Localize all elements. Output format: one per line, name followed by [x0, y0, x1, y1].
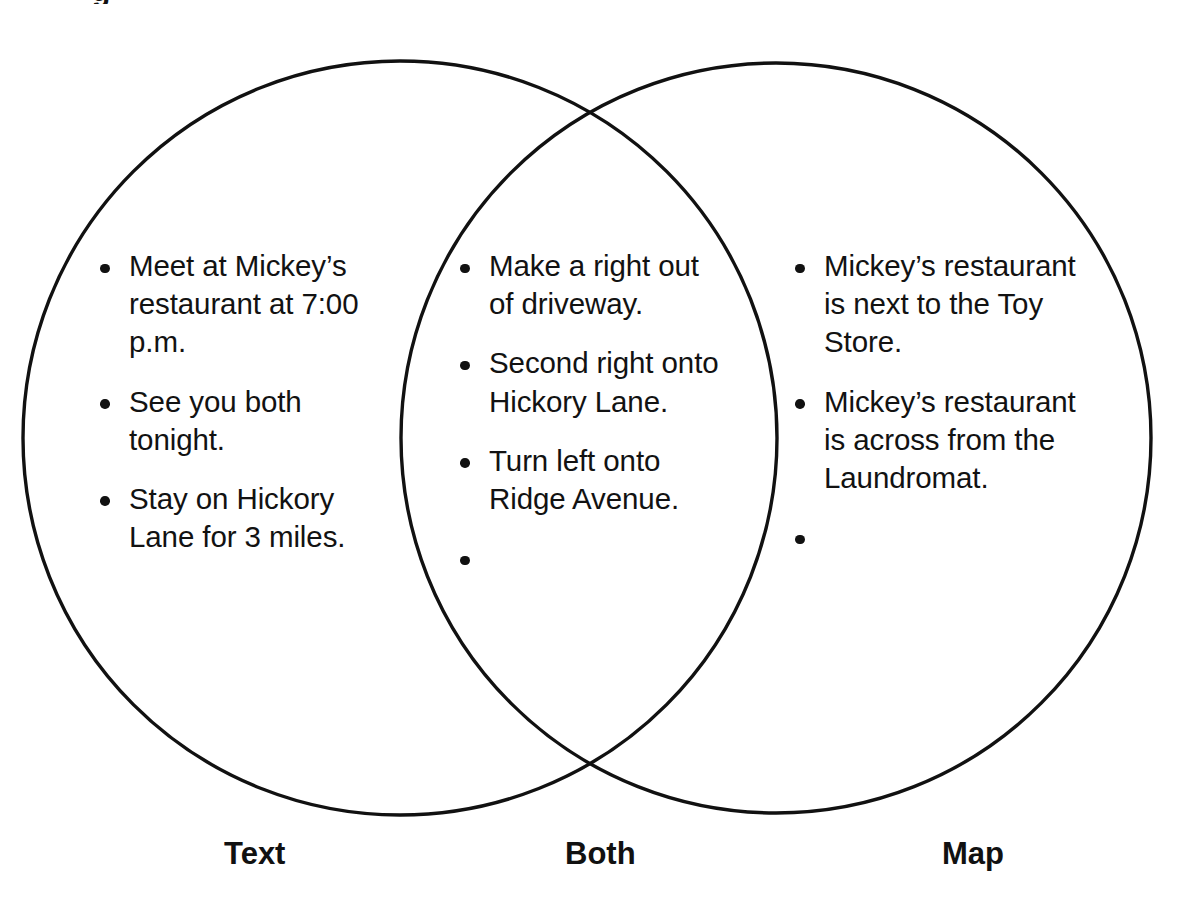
- bullet-dot-icon: [460, 556, 470, 566]
- region-both-overlap: Make a right out of driveway. Second rig…: [458, 247, 720, 553]
- bullet-dot-icon: [795, 535, 805, 545]
- list-item-label: Stay on Hickory Lane for 3 miles.: [129, 480, 366, 556]
- list-item: Mickey’s restaurant is next to the Toy S…: [793, 247, 1093, 362]
- list-item: See you both tonight.: [98, 383, 366, 459]
- venn-label-map: Map: [942, 836, 1004, 872]
- list-item: Mickey’s restaurant is across from the L…: [793, 383, 1093, 498]
- list-item: Turn left onto Ridge Avenue.: [458, 442, 720, 518]
- list-item-label: Meet at Mickey’s restaurant at 7:00 p.m.: [129, 247, 366, 362]
- list-item-label: Second right onto Hickory Lane.: [489, 344, 720, 420]
- list-item: Stay on Hickory Lane for 3 miles.: [98, 480, 366, 556]
- bullet-dot-icon: [100, 496, 110, 506]
- venn-label-both: Both: [565, 836, 636, 872]
- list-item-label: Turn left onto Ridge Avenue.: [489, 442, 720, 518]
- bullet-dot-icon: [100, 264, 110, 274]
- list-item: Meet at Mickey’s restaurant at 7:00 p.m.: [98, 247, 366, 362]
- region-text-only: Meet at Mickey’s restaurant at 7:00 p.m.…: [98, 247, 366, 556]
- bullet-dot-icon: [795, 399, 805, 409]
- list-item: Second right onto Hickory Lane.: [458, 344, 720, 420]
- bullet-dot-icon: [460, 458, 470, 468]
- list-item-label: Make a right out of driveway.: [489, 247, 720, 323]
- bullet-dot-icon: [460, 264, 470, 274]
- list-item: Make a right out of driveway.: [458, 247, 720, 323]
- list-item-label: Mickey’s restaurant is next to the Toy S…: [824, 247, 1093, 362]
- bullet-list-text: Meet at Mickey’s restaurant at 7:00 p.m.…: [98, 247, 366, 556]
- region-map-only: Mickey’s restaurant is next to the Toy S…: [793, 247, 1093, 532]
- bullet-list-map: Mickey’s restaurant is next to the Toy S…: [793, 247, 1093, 532]
- bullet-dot-icon: [460, 361, 470, 371]
- venn-label-text: Text: [224, 836, 285, 872]
- list-item-empty: [458, 539, 720, 553]
- list-item-empty: [793, 518, 1093, 532]
- bullet-dot-icon: [795, 264, 805, 274]
- bullet-dot-icon: [100, 399, 110, 409]
- list-item-label: Mickey’s restaurant is across from the L…: [824, 383, 1093, 498]
- venn-diagram-page: g Meet at Mickey’s restaurant at 7:00 p.…: [0, 0, 1178, 921]
- bullet-list-both: Make a right out of driveway. Second rig…: [458, 247, 720, 553]
- list-item-label: See you both tonight.: [129, 383, 366, 459]
